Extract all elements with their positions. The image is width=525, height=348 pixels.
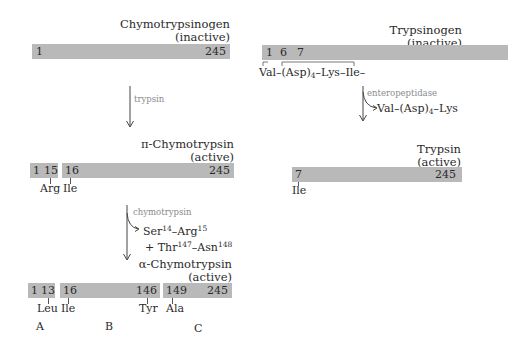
residue-1: 1	[266, 45, 273, 60]
residue-16: 16	[63, 283, 77, 298]
chymotrypsinogen-state: (inactive)	[120, 31, 230, 44]
trypsinogen-n-terminal-sequence: Val–(Asp)4–Lys–Ile–	[259, 66, 365, 82]
residue-arg: Arg	[40, 183, 60, 195]
residue-ile: Ile	[292, 185, 306, 197]
product-val-asp: Val–(Asp)	[377, 102, 429, 115]
alpha-chymotrypsin-chain-b: 16 146	[60, 283, 160, 298]
residue-7: 7	[295, 167, 302, 182]
product-thr: + Thr	[145, 241, 177, 254]
product-ser-num: 14	[162, 224, 172, 233]
residue-ala: Ala	[166, 303, 184, 315]
product-asn-num: 148	[218, 240, 232, 249]
alpha-chymotrypsin-title: α-Chymotrypsin (active)	[139, 258, 232, 284]
residue-tyr: Tyr	[139, 303, 158, 315]
product-ser-arg: Ser14–Arg15	[143, 222, 232, 238]
residue-245: 245	[207, 283, 228, 298]
pi-chymotrypsin-title: π-Chymotrypsin (active)	[141, 138, 234, 164]
enzyme-enteropeptidase: enteropeptidase	[367, 88, 437, 98]
product-thr-asn: + Thr147–Asn148	[143, 238, 232, 254]
enzyme-trypsin: trypsin	[134, 94, 164, 104]
residue-end: 245	[205, 44, 226, 59]
chain-label-b: B	[105, 320, 113, 333]
enzyme-chymotrypsin: chymotrypsin	[133, 207, 192, 217]
residue-leu: Leu	[37, 303, 58, 315]
chain-label-a: A	[36, 320, 44, 333]
pi-chymotrypsin-segment-2: 16 245	[62, 163, 234, 178]
trypsin-title: Trypsin (active)	[417, 143, 461, 169]
trypsin-bar: 7 245	[292, 167, 462, 182]
chymotrypsinogen-bar: 1 245	[32, 44, 230, 59]
product-lys: –Lys	[434, 102, 458, 115]
residue-146: 146	[136, 283, 157, 298]
released-hexapeptide: Val–(Asp)4–Lys	[377, 102, 458, 118]
released-dipeptides: Ser14–Arg15 + Thr147–Asn148	[143, 222, 232, 254]
residue-13: 13	[41, 283, 55, 298]
product-arg-num: 15	[198, 224, 208, 233]
residue-245: 245	[435, 167, 456, 182]
sequence-val-asp: Val–(Asp)	[259, 66, 311, 79]
alpha-chymotrypsin-chain-a: 1 13	[28, 283, 55, 298]
residue-7: 7	[297, 45, 304, 60]
pi-chymotrypsin-segment-1: 1 15	[30, 163, 58, 178]
residue-149: 149	[166, 283, 187, 298]
sequence-lys-ile: –Lys–Ile–	[316, 66, 366, 79]
residue-15: 15	[44, 163, 58, 178]
chain-label-c: C	[194, 322, 202, 335]
residue-ile: Ile	[61, 303, 75, 315]
product-thr-num: 147	[177, 240, 191, 249]
product-arg: –Arg	[172, 225, 198, 238]
residue-1: 1	[31, 283, 38, 298]
residue-ile: Ile	[63, 183, 77, 195]
product-asn: –Asn	[192, 241, 218, 254]
residue-16: 16	[65, 163, 79, 178]
residue-1: 1	[33, 163, 40, 178]
residue-start: 1	[36, 44, 43, 59]
residue-6: 6	[280, 45, 287, 60]
chymotrypsinogen-title: Chymotrypsinogen (inactive)	[120, 18, 230, 44]
residue-245: 245	[209, 163, 230, 178]
trypsinogen-bar: 1 6 7	[262, 45, 508, 60]
alpha-chymotrypsin-chain-c: 149 245	[163, 283, 232, 298]
down-arrow-icon	[125, 86, 135, 130]
product-ser: Ser	[143, 225, 162, 238]
